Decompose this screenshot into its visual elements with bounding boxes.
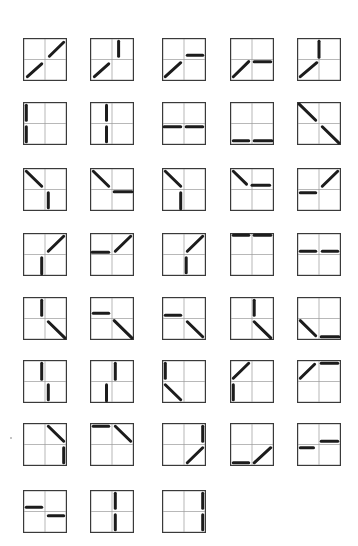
panel-drawing [230,233,274,276]
panel-drawing [297,38,341,81]
panel-r7-c2 [90,423,134,466]
line-segment [187,322,202,337]
line-segment [165,171,180,186]
panel-r3-c2 [90,168,134,211]
panel-r2-c3 [162,102,206,145]
panel-drawing [90,38,134,81]
panel-drawing [297,423,341,466]
panel-drawing [162,233,206,276]
line-segment [322,171,337,186]
panel-r3-c4 [230,168,274,211]
line-segment [254,322,271,338]
panel-drawing [23,360,67,403]
panel-drawing [230,38,274,81]
line-segment [165,63,180,77]
panel-r8-c2 [90,490,134,533]
panel-r4-c2 [90,233,134,276]
line-segment [233,62,248,77]
panel-drawing [23,297,67,340]
panel-r2-c2 [90,102,134,145]
panel-r7-c5 [297,423,341,466]
panel-drawing [23,168,67,211]
line-segment [300,321,315,336]
panel-r5-c4 [230,297,274,340]
panel-drawing [162,168,206,211]
panel-r6-c4 [230,360,274,403]
line-segment [300,364,314,378]
line-segment [114,321,132,338]
panel-drawing [23,102,67,145]
panel-drawing [90,168,134,211]
panel-r3-c1 [23,168,67,211]
panel-drawing [230,102,274,145]
panel-drawing [23,490,67,533]
line-segment [254,448,271,463]
panel-r6-c5 [297,360,341,403]
line-segment [93,171,108,186]
panel-r6-c2 [90,360,134,403]
panel-drawing [162,102,206,145]
panel-drawing [23,233,67,276]
panel-drawing [230,360,274,403]
panel-r4-c4 [230,233,274,276]
panel-drawing [230,423,274,466]
panel-drawing [23,38,67,81]
panel-drawing [90,490,134,533]
panel-drawing [162,297,206,340]
panel-r8-c1 [23,490,67,533]
line-segment [27,64,41,77]
panel-r5-c2 [90,297,134,340]
panel-r4-c1 [23,233,67,276]
panel-r1-c4 [230,38,274,81]
panel-r1-c3 [162,38,206,81]
panel-r1-c5 [297,38,341,81]
panel-r2-c1 [23,102,67,145]
panel-r4-c5 [297,233,341,276]
panel-r5-c5 [297,297,341,340]
line-segment [187,236,202,251]
line-segment [187,448,202,463]
panel-drawing [162,490,206,533]
line-segment [300,63,317,77]
line-segment [322,127,339,143]
panel-r8-c3 [162,490,206,533]
line-segment [233,363,248,378]
panel-drawing [230,297,274,340]
panel-drawing [90,233,134,276]
panel-drawing [297,297,341,340]
line-segment [299,104,316,120]
scan-speck [10,437,12,439]
panel-drawing [90,102,134,145]
panel-drawing [297,360,341,403]
line-segment [233,171,246,184]
line-segment [26,171,41,186]
line-segment [165,385,180,400]
line-segment [48,236,63,251]
panel-r7-c4 [230,423,274,466]
panel-r2-c4 [230,102,274,145]
panel-drawing [162,423,206,466]
panel-r6-c3 [162,360,206,403]
panel-drawing [23,423,67,466]
panel-r7-c1 [23,423,67,466]
panel-r3-c3 [162,168,206,211]
panel-r1-c1 [23,38,67,81]
panel-drawing [297,102,341,145]
panel-r7-c3 [162,423,206,466]
panel-drawing [162,360,206,403]
line-segment [94,64,108,77]
line-segment [48,426,63,441]
line-segment [115,426,130,441]
panel-r1-c2 [90,38,134,81]
panel-drawing [297,168,341,211]
line-segment [48,322,65,338]
panel-r5-c3 [162,297,206,340]
panel-r2-c5 [297,102,341,145]
panel-drawing [230,168,274,211]
panel-r6-c1 [23,360,67,403]
panel-drawing [90,360,134,403]
panel-r4-c3 [162,233,206,276]
line-segment [115,236,130,251]
panel-r3-c5 [297,168,341,211]
panel-drawing [162,38,206,81]
